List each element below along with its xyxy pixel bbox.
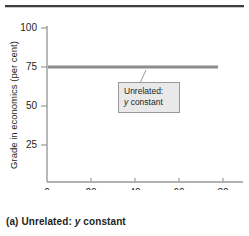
- x-tick-label-40: 40: [129, 187, 141, 190]
- figure-caption-variable-y: y: [75, 216, 81, 227]
- y-axis-title: Grade in economics (per cent): [8, 41, 19, 169]
- x-tick-label-60: 60: [173, 187, 185, 190]
- annotation-line-2-rest: constant: [131, 97, 163, 107]
- annotation-callout-box: Unrelated: y constant: [118, 82, 180, 113]
- x-tick-label-0: 0: [44, 187, 50, 190]
- y-tick-label-75: 75: [26, 61, 38, 72]
- figure-caption: (a) Unrelated: y constant: [6, 216, 126, 227]
- annotation-variable-y: y: [124, 97, 128, 107]
- annotation-line-1: Unrelated:: [124, 86, 163, 96]
- y-tick-label-100: 100: [20, 22, 37, 33]
- figure-root: 100 75 50 25 0 20 40 60 80 Price of bana…: [0, 0, 249, 236]
- figure-caption-prefix: (a) Unrelated:: [6, 216, 72, 227]
- figure-caption-suffix: constant: [83, 216, 125, 227]
- y-tick-label-50: 50: [26, 100, 38, 111]
- y-tick-label-25: 25: [26, 139, 38, 150]
- x-tick-label-80: 80: [217, 187, 229, 190]
- annotation-line-2: y constant: [124, 97, 179, 108]
- x-tick-label-20: 20: [85, 187, 97, 190]
- figure-top-rule-shadow: [5, 7, 244, 8]
